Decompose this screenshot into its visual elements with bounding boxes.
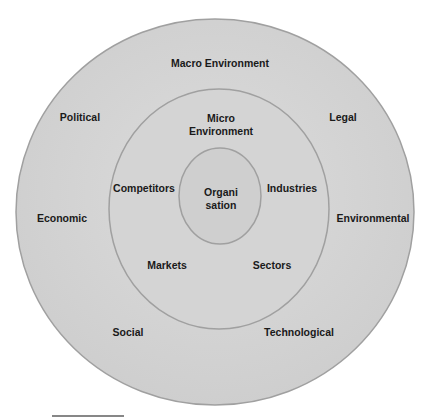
factor-legal: Legal xyxy=(329,111,356,124)
factor-competitors: Competitors xyxy=(113,182,175,195)
factor-sectors: Sectors xyxy=(253,259,292,272)
organisation-label: Organi sation xyxy=(204,186,238,211)
micro-title-line2: Environment xyxy=(189,124,253,137)
factor-economic: Economic xyxy=(37,212,87,225)
macro-environment-title: Macro Environment xyxy=(171,57,269,70)
factor-social: Social xyxy=(113,326,144,339)
micro-environment-title: Micro Environment xyxy=(189,112,253,137)
organisation-line2: sation xyxy=(204,198,238,211)
factor-technological: Technological xyxy=(264,326,334,339)
factor-political: Political xyxy=(60,111,100,124)
factor-markets: Markets xyxy=(147,259,187,272)
factor-industries: Industries xyxy=(267,182,317,195)
organisation-line1: Organi xyxy=(204,186,238,199)
factor-environmental: Environmental xyxy=(337,212,410,225)
micro-title-line1: Micro xyxy=(189,112,253,125)
